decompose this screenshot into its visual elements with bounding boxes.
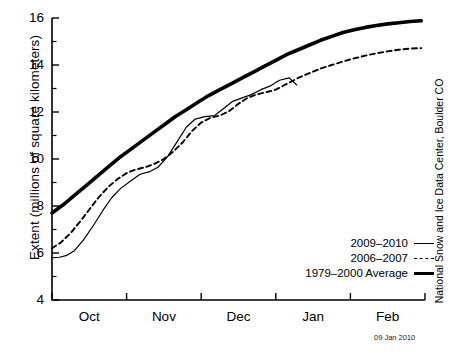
x-tick-label: Jan	[283, 310, 343, 324]
x-tick-label: Nov	[134, 310, 194, 324]
legend-item: 2009–2010	[248, 236, 434, 251]
legend-label: 1979–2000 Average	[305, 268, 414, 280]
series-line	[52, 21, 421, 213]
y-tick-label: 8	[16, 199, 44, 213]
legend-label: 2009–2010	[350, 238, 414, 250]
y-tick-label: 12	[16, 105, 44, 119]
y-tick-label: 6	[16, 246, 44, 260]
x-tick-label: Oct	[59, 310, 119, 324]
series-line	[52, 78, 297, 258]
y-tick-label: 14	[16, 58, 44, 72]
legend-swatch-solid-thin-icon	[414, 239, 434, 249]
data-series-group	[52, 21, 421, 258]
plot-area	[0, 0, 456, 353]
y-tick-label: 4	[16, 293, 44, 307]
legend-label: 2006–2007	[350, 253, 414, 265]
legend-item: 1979–2000 Average	[248, 266, 434, 281]
chart-figure: Extent (millions of square kilometers) N…	[0, 0, 456, 353]
legend-swatch-dashed-icon	[414, 254, 434, 264]
x-tick-label: Feb	[358, 310, 418, 324]
y-tick-label: 10	[16, 152, 44, 166]
series-line	[52, 48, 421, 248]
chart-legend: 2009–2010 2006–2007 1979–2000 Average	[248, 236, 434, 281]
legend-swatch-solid-thick-icon	[414, 269, 434, 279]
legend-item: 2006–2007	[248, 251, 434, 266]
date-stamp: 09 Jan 2010	[374, 333, 415, 342]
x-tick-label: Dec	[209, 310, 269, 324]
y-tick-label: 16	[16, 11, 44, 25]
